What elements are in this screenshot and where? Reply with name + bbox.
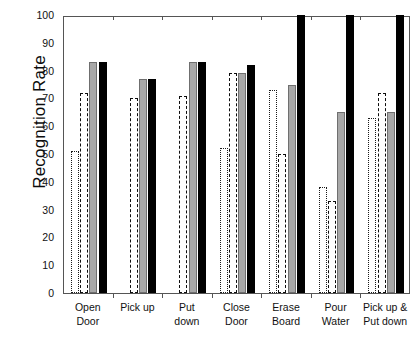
bar (368, 118, 376, 293)
y-tick-label: 80 (42, 65, 54, 77)
y-tick-label: 100 (36, 9, 54, 21)
x-tick-mark (360, 16, 361, 20)
bar (269, 90, 277, 293)
x-axis-category-label: Pick up & Put down (354, 301, 416, 328)
recognition-rate-bar-chart: Recognition Rate 0102030405060708090100 … (0, 0, 420, 338)
bar (99, 62, 107, 293)
bar (346, 15, 354, 293)
y-tick-label: 10 (42, 259, 54, 271)
bar (80, 93, 88, 293)
bar (288, 85, 296, 294)
y-tick-label: 50 (42, 148, 54, 160)
bar (130, 98, 138, 293)
bar (139, 79, 147, 293)
bar (220, 148, 228, 293)
y-tick-label: 90 (42, 37, 54, 49)
bar (198, 62, 206, 293)
x-tick-mark (113, 294, 114, 298)
x-tick-mark (162, 16, 163, 20)
y-tick-label: 70 (42, 92, 54, 104)
x-tick-mark (311, 16, 312, 20)
y-tick-label: 30 (42, 204, 54, 216)
bar (328, 201, 336, 293)
x-tick-mark (162, 294, 163, 298)
bar (396, 15, 404, 293)
bar (278, 154, 286, 293)
x-tick-mark (261, 294, 262, 298)
x-tick-mark (113, 16, 114, 20)
y-tick-label: 60 (42, 120, 54, 132)
bar (238, 73, 246, 293)
bar (89, 62, 97, 293)
y-tick-label: 40 (42, 176, 54, 188)
bar (71, 151, 79, 293)
bar (337, 112, 345, 293)
bar (319, 187, 327, 293)
y-tick-label: 0 (48, 287, 54, 299)
bar (148, 79, 156, 293)
bar (189, 62, 197, 293)
bar (387, 112, 395, 293)
bar (297, 15, 305, 293)
x-tick-mark (360, 294, 361, 298)
y-tick-label: 20 (42, 231, 54, 243)
x-tick-mark (212, 294, 213, 298)
bar (378, 93, 386, 293)
bar (247, 65, 255, 293)
x-tick-mark (311, 294, 312, 298)
x-tick-mark (212, 16, 213, 20)
bar (179, 96, 187, 293)
plot-area (63, 16, 410, 294)
x-tick-mark (261, 16, 262, 20)
bar (229, 73, 237, 293)
